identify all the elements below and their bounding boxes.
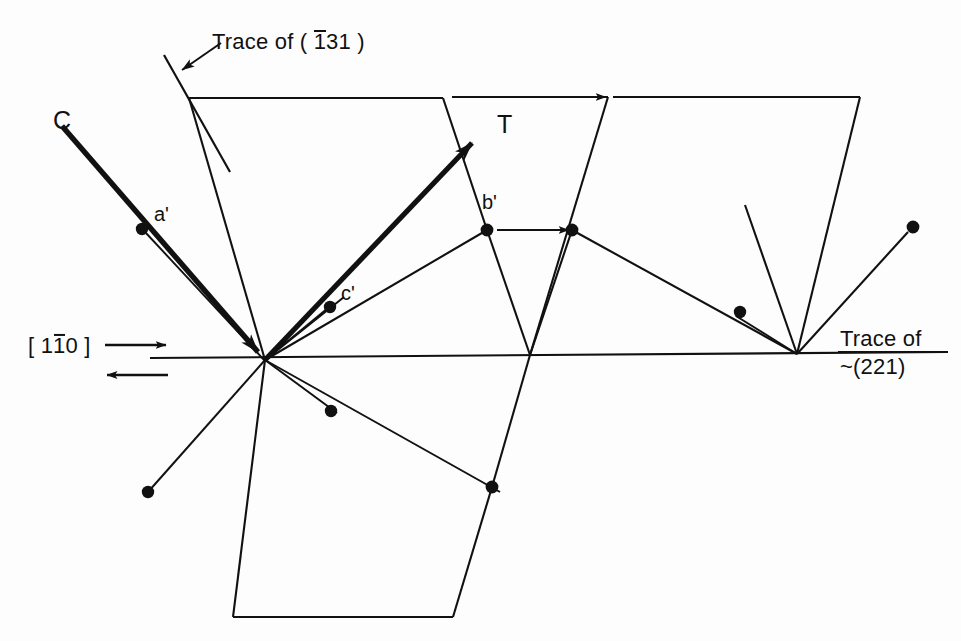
right-node-rays [736,316,797,354]
vector-t-label: T [497,111,512,137]
point-a-prime-label: a' [154,204,169,225]
vector-c-arrow [62,126,258,352]
c-prime-dot [324,301,336,313]
direction-110-open: [ [28,333,41,358]
lower-mid-dot [325,405,337,417]
trace-131-overbar-digit: 1 [314,29,326,53]
direction-110-rest: 0 ] [66,333,91,358]
trace-221-line1: Trace of [840,327,921,350]
diagram-canvas [0,0,961,641]
point-c-prime-label: c' [341,283,355,304]
grain-lower-outline [233,355,530,617]
b-prime-dot [481,224,494,237]
lower-left-dot [142,486,154,498]
grain-upper-middle-outline [443,97,608,355]
right-slope-dot [734,306,746,318]
lower-junction-dot [486,481,499,494]
direction-110-label: [ 110 ] [28,333,91,357]
a-prime-dot [136,223,148,235]
b-prime-target-dot [566,224,579,237]
trace-221-label: Trace of ~(221) [840,327,921,378]
vector-t-arrow [265,143,472,360]
direction-110-overbar-digit: 1 [53,333,65,357]
vector-c-label: C [53,107,71,133]
trace-131-label: Trace of ( 131 ) [212,29,365,53]
trace-131-prefix: Trace of ( [212,29,314,54]
direction-110-first: 1 [41,333,53,358]
trace-221-line2: ~(221) [840,355,905,378]
internal-boundary-lines [265,205,908,360]
figure-root: Trace of ( 131 ) [ 110 ] Trace of ~(221)… [0,0,961,641]
trace-131-segment [164,55,230,172]
trace-131-suffix: 31 ) [326,29,365,54]
point-b-prime-label: b' [482,192,497,213]
far-right-dot [907,221,920,234]
